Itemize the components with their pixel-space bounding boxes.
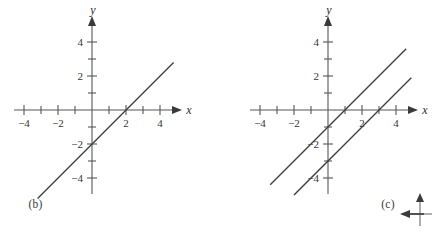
data-line-c-2 (294, 78, 411, 195)
y-tick-label-pos4-b: 4 (78, 36, 84, 48)
x-tick-label-neg2-b: −2 (52, 117, 64, 129)
x-axis-arrowhead-c (408, 106, 418, 114)
axes-move-left-icon-svg (398, 192, 436, 230)
x-tick-label-neg2-c: −2 (288, 117, 300, 129)
chart-panel-b: −4 −2 2 4 4 2 −2 −4 x y (b) (0, 0, 215, 236)
corner-left-arrowhead (400, 210, 410, 218)
y-axis-arrowhead-c (324, 16, 332, 26)
x-tick-label-pos2-b: 2 (123, 117, 129, 129)
axes-move-left-icon[interactable] (398, 192, 436, 230)
y-axis-label-b: y (89, 3, 96, 17)
x-tick-label-neg4-c: −4 (254, 117, 266, 129)
x-tick-label-pos4-b: 4 (157, 117, 163, 129)
y-tick-label-neg4-b: −4 (71, 172, 83, 184)
x-tick-label-pos4-c: 4 (393, 117, 399, 129)
x-axis-arrowhead-b (172, 106, 182, 114)
panel-caption-b: (b) (0, 198, 143, 210)
data-line-b-1 (38, 62, 174, 198)
y-tick-label-pos2-b: 2 (78, 70, 84, 82)
corner-up-arrowhead (416, 193, 424, 202)
y-tick-label-pos4-c: 4 (314, 36, 320, 48)
y-tick-label-neg2-c: −2 (307, 138, 319, 150)
x-axis-label-b: x (185, 103, 192, 117)
y-tick-label-pos2-c: 2 (314, 70, 320, 82)
x-tick-label-neg4-b: −4 (18, 117, 30, 129)
y-tick-label-neg4-c: −4 (307, 172, 319, 184)
y-tick-label-neg2-b: −2 (71, 138, 83, 150)
y-axis-label-c: y (325, 3, 332, 17)
x-axis-label-c: x (421, 103, 428, 117)
figure-root: −4 −2 2 4 4 2 −2 −4 x y (b) (0, 0, 437, 236)
y-axis-arrowhead-b (88, 16, 96, 26)
